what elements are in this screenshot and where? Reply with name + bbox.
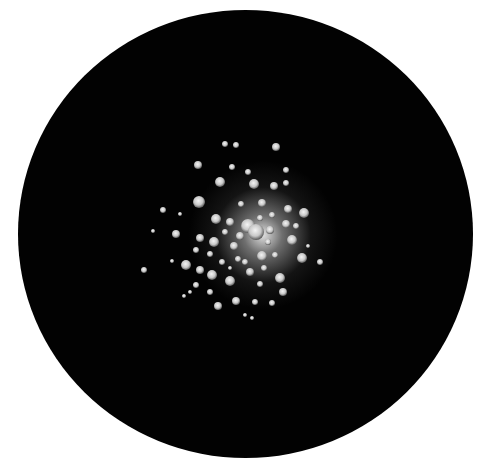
star (230, 242, 238, 250)
star (193, 247, 199, 253)
star (196, 234, 204, 242)
star (214, 302, 222, 310)
star (243, 313, 247, 317)
star (170, 259, 174, 263)
star (193, 282, 199, 288)
star (306, 244, 310, 248)
star (172, 230, 180, 238)
star (257, 281, 263, 287)
star (193, 196, 205, 208)
star (293, 223, 299, 229)
star (207, 289, 213, 295)
star (225, 276, 235, 286)
star (269, 212, 275, 218)
star (151, 229, 155, 233)
star (188, 290, 192, 294)
star (257, 215, 263, 221)
star (141, 267, 147, 273)
star (266, 226, 274, 234)
star (257, 251, 267, 261)
star (252, 299, 258, 305)
star (232, 297, 240, 305)
star (317, 259, 323, 265)
star (269, 300, 275, 306)
star (182, 294, 186, 298)
star (229, 164, 235, 170)
star (219, 259, 225, 265)
star (226, 218, 234, 226)
star (245, 169, 251, 175)
star (246, 268, 254, 276)
star (235, 256, 241, 262)
star (272, 252, 278, 258)
star (270, 182, 278, 190)
star (272, 143, 280, 151)
star (160, 207, 166, 213)
star (211, 214, 221, 224)
star (283, 167, 289, 173)
star (207, 270, 217, 280)
star (261, 265, 267, 271)
star (194, 161, 202, 169)
star (215, 177, 225, 187)
star (287, 235, 297, 245)
star (222, 141, 228, 147)
star (222, 229, 228, 235)
star (207, 251, 213, 257)
star (299, 208, 309, 218)
star (249, 179, 259, 189)
star (258, 199, 266, 207)
star (284, 205, 292, 213)
star (228, 266, 232, 270)
star (233, 142, 239, 148)
star (297, 253, 307, 263)
star (279, 288, 287, 296)
star (242, 259, 248, 265)
star (283, 180, 289, 186)
star (196, 266, 204, 274)
star (282, 220, 290, 228)
star (209, 237, 219, 247)
star (236, 232, 244, 240)
star (265, 239, 271, 245)
star (275, 273, 285, 283)
star (238, 201, 244, 207)
star (178, 212, 182, 216)
star (248, 224, 264, 240)
star (250, 316, 254, 320)
star (181, 260, 191, 270)
